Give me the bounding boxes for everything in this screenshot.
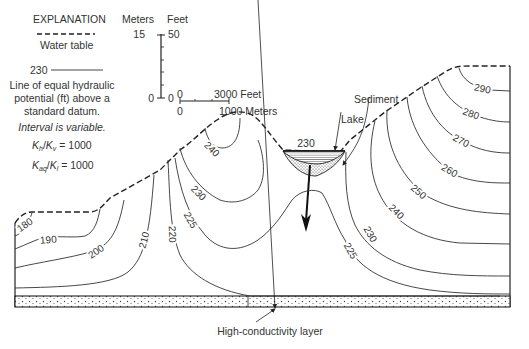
horizontal-scale-meters-start: 0 [177,105,183,117]
contour-label-190: 190 [40,233,58,245]
lake-level-label: 230 [297,137,315,149]
contour-220 [168,160,500,296]
ratio-kaq-kl: Kaq/Kl = 1000 [32,159,94,173]
lake-label: Lake [341,113,364,125]
contour-label-240-left: 240 [202,139,222,159]
contour-label-225-left: 225 [182,210,200,230]
legend: EXPLANATION Water table 230 Line of equa… [9,13,114,173]
contour-label-240-right: 240 [387,202,407,222]
vertical-scale-feet-bottom: 0 [168,92,174,104]
contour-200 [15,200,124,268]
vertical-scale-meters-bottom: 0 [148,92,154,104]
contour-label-280: 280 [461,106,481,122]
contour-label-180: 180 [15,215,35,234]
ratio-kh-kv: Kh/Kv = 1000 [32,139,92,152]
vertical-scale-meters-label: Meters [122,13,154,25]
horizontal-scale-meters-end: 1000 Meters [219,105,277,117]
contour-label-290: 290 [473,81,492,95]
vertical-scale-feet-top: 50 [168,28,180,40]
contour-label-210: 210 [137,230,152,249]
contour-210 [15,175,154,288]
contour-label-225-right: 225 [342,241,360,261]
legend-title: EXPLANATION [33,13,106,25]
contour-label-200: 200 [86,242,106,261]
contour-label-230-right: 230 [361,224,379,244]
contour-250 [387,110,510,214]
contour-desc-line3: standard datum. [24,105,100,117]
contour-label-260: 260 [440,162,460,180]
horizontal-scale-feet-end: 3000 Feet [214,88,261,100]
contour-225 [175,158,510,294]
water-table-legend-label: Water table [40,39,93,51]
contour-label-220: 220 [167,226,179,243]
contour-desc-line2: potential (ft) above a [14,92,110,104]
high-conductivity-layer [15,296,510,307]
horizontal-scale: 0 3000 Feet 0 1000 Meters [177,88,277,117]
contour-legend-value: 230 [30,64,48,76]
vertical-scale-meters-top: 15 [133,28,145,40]
vertical-scale-feet-label: Feet [167,13,188,25]
contour-label-230-left: 230 [189,183,209,203]
contour-label-250: 250 [409,182,429,201]
groundwater-flow-diagram: EXPLANATION Water table 230 Line of equa… [0,0,529,349]
contour-230-right [346,152,510,276]
interval-note: Interval is variable. [18,121,106,133]
contour-desc-line1: Line of equal hydraulic [9,79,114,91]
contour-label-270: 270 [451,132,471,150]
sediment-label: Sediment [354,93,398,105]
high-conductivity-layer-label: High-conductivity layer [217,325,323,337]
